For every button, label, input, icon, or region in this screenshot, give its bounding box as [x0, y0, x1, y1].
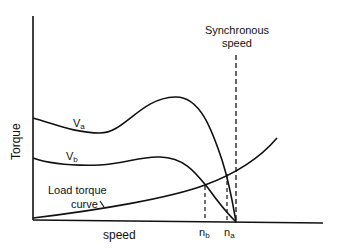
x-axis-label: speed: [103, 229, 136, 241]
va-label-sub: a: [80, 122, 84, 131]
x-axis: [33, 220, 323, 223]
load-torque-label-line1: Load torque: [48, 185, 107, 196]
synchronous-label-line2: speed: [197, 38, 277, 49]
synchronous-label-line1: Synchronous: [197, 25, 277, 36]
vb-label-sub: b: [73, 155, 77, 164]
torque-speed-diagram: [0, 0, 340, 251]
y-axis-label: Torque: [10, 123, 22, 160]
synchronous-speed-label: Synchronous speed: [197, 25, 277, 49]
load-torque-label-line2: curve: [48, 199, 107, 210]
vb-label: Vb: [66, 151, 78, 164]
nb-label-sub: b: [205, 231, 209, 240]
load-torque-label: Load torque curve: [48, 185, 107, 210]
na-label-sub: a: [230, 231, 234, 240]
na-label: na: [224, 227, 235, 240]
va-label: Va: [73, 118, 85, 131]
nb-label: nb: [199, 227, 210, 240]
